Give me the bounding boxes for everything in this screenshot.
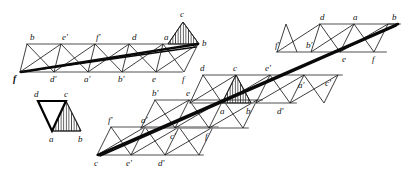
label-strip-top-left-bottom-4: e xyxy=(152,74,156,84)
fold-main-diagonal-secondary xyxy=(100,26,396,156)
label-middle-cprime: c′ xyxy=(325,78,332,88)
label-top-right-b: b xyxy=(392,12,397,22)
label-lower-left-eprime: e′ xyxy=(126,158,133,168)
label-middle-d: d xyxy=(200,63,205,73)
diagram-page: b e′ f′ d a b f d′ a′ b′ e f c d c a b xyxy=(0,0,415,179)
strip-small-detached: d c a b xyxy=(34,89,83,144)
shaded-triangle-c-left xyxy=(168,22,199,44)
label-strip-top-left-bottom-5: f xyxy=(182,74,186,84)
label-lower-left-c: c xyxy=(94,158,98,168)
label-strip-top-left-bottom-2: a′ xyxy=(84,74,92,84)
strip-top-left: b e′ f′ d a b f d′ a′ b′ e f c xyxy=(13,9,207,84)
label-middle-a: a xyxy=(220,106,225,116)
label-top-right-d: d xyxy=(320,12,325,22)
label-middle-eprime: e′ xyxy=(265,63,272,73)
fold-left-strip-secondary xyxy=(21,47,196,72)
label-small-b: b xyxy=(78,134,83,144)
strip-middle-lower-edges xyxy=(141,100,257,128)
label-lower-left-fprime: f′ xyxy=(108,115,114,125)
label-middle-lower-bprime: b′ xyxy=(152,88,160,98)
label-small-a: a xyxy=(49,134,54,144)
strip-middle-edges xyxy=(190,75,338,103)
label-middle-c: c xyxy=(233,63,237,73)
label-strip-top-left-bottom-1: d′ xyxy=(50,74,58,84)
label-top-right-e: e xyxy=(342,54,346,64)
label-middle-lower-cprime: c′ xyxy=(170,131,177,141)
label-strip-top-left-bottom-0: f xyxy=(13,74,17,84)
label-top-right-f: f xyxy=(372,54,376,64)
label-middle-dprime: d′ xyxy=(277,106,285,116)
triangular-strip-figure: b e′ f′ d a b f d′ a′ b′ e f c d c a b xyxy=(0,0,415,179)
label-middle-lower-e: e xyxy=(186,88,190,98)
label-small-d: d xyxy=(34,89,39,99)
label-top-right-a: a xyxy=(353,12,358,22)
strip-top-right-edges xyxy=(277,24,398,52)
label-middle-aprime: a′ xyxy=(298,80,306,90)
label-strip-top-left-top-2: f′ xyxy=(96,32,102,42)
label-strip-top-left-top-5: b xyxy=(202,38,207,48)
shaded-triangle-small xyxy=(52,101,81,131)
label-strip-top-left-top-1: e′ xyxy=(62,32,69,42)
label-apex-c-left: c xyxy=(180,9,184,19)
label-strip-top-left-top-3: d xyxy=(132,32,137,42)
strip-lower-left: f′ a′ c e′ d′ xyxy=(94,115,218,168)
strip-middle: d c e′ a′ c′ a b d′ xyxy=(190,63,342,116)
label-strip-top-left-top-4: a xyxy=(164,32,169,42)
label-top-right-bprime: b′ xyxy=(306,40,314,50)
label-strip-top-left-bottom-3: b′ xyxy=(118,74,126,84)
label-middle-b: b xyxy=(246,106,251,116)
label-strip-top-left-top-0: b xyxy=(30,32,35,42)
label-lower-left-dprime: d′ xyxy=(158,158,166,168)
label-small-c: c xyxy=(64,89,68,99)
strip-top-right: d a b f′ b′ e f xyxy=(275,12,400,64)
